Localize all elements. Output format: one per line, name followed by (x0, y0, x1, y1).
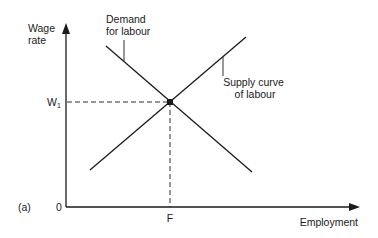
labour-market-diagram: Wage rate Demand for labour Supply curve… (0, 0, 378, 238)
wage-marker-label: W1 (47, 96, 61, 109)
panel-label: (a) (18, 201, 31, 213)
axes (62, 23, 360, 211)
supply-label: Supply curve of labour (223, 76, 287, 100)
demand-label: Demand for labour (106, 13, 151, 37)
y-axis-label: Wage rate (28, 22, 58, 46)
y-axis-arrow-icon (62, 23, 70, 34)
equilibrium-point (167, 99, 173, 105)
x-axis-arrow-icon (349, 203, 360, 211)
demand-curve (106, 46, 252, 172)
origin-label: 0 (56, 201, 62, 213)
x-axis-label: Employment (300, 216, 358, 228)
employment-marker-label: F (167, 212, 173, 224)
